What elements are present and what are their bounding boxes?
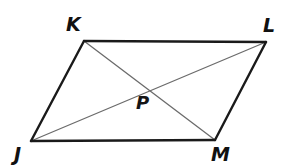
side-JK <box>31 41 84 141</box>
side-KL <box>84 41 266 42</box>
vertex-label-l: L <box>263 16 275 35</box>
geometry-figure: K L J M P <box>0 0 289 168</box>
vertex-label-j: J <box>14 145 21 164</box>
vertex-label-k: K <box>66 15 81 34</box>
parallelogram-diagram <box>0 0 289 168</box>
point-label-p: P <box>136 94 149 112</box>
vertex-label-m: M <box>211 145 230 164</box>
side-MJ <box>31 140 215 141</box>
side-LM <box>215 42 266 140</box>
